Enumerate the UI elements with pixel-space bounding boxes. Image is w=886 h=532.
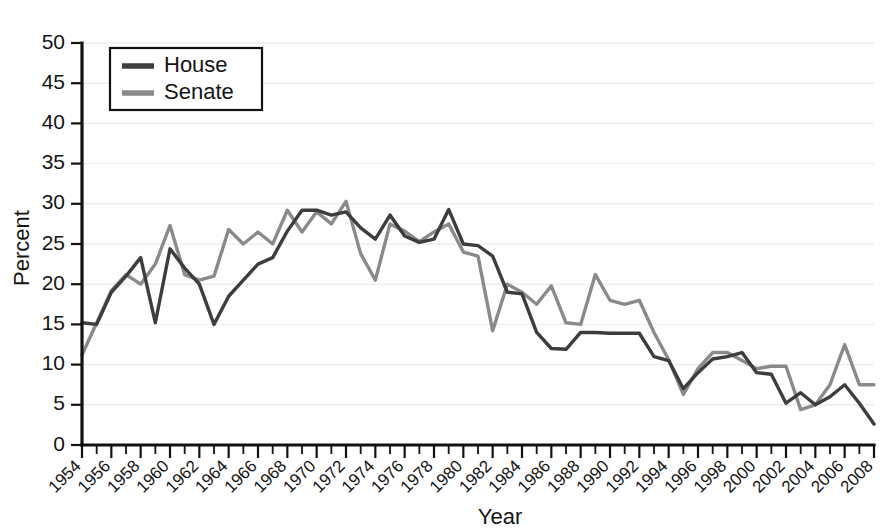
x-tick-label: 1980 (426, 456, 466, 496)
x-tick-label: 1986 (514, 456, 554, 496)
x-tick-label: 1956 (74, 456, 114, 496)
y-tick-label: 50 (42, 30, 65, 53)
series-line-house (82, 209, 874, 424)
y-axis-tick-labels: 05101520253035404550 (42, 30, 65, 455)
x-tick-label: 1972 (309, 456, 349, 496)
y-tick-label: 25 (42, 231, 65, 254)
y-tick-label: 10 (42, 351, 65, 374)
x-tick-label: 2008 (837, 456, 877, 496)
legend-label-senate: Senate (164, 79, 234, 104)
x-tick-label: 1962 (162, 456, 202, 496)
x-tick-label: 1968 (250, 456, 290, 496)
y-tick-label: 30 (42, 190, 65, 213)
y-tick-label: 35 (42, 150, 65, 173)
x-tick-label: 1988 (543, 456, 583, 496)
x-tick-label: 1966 (221, 456, 261, 496)
legend-label-house: House (164, 52, 228, 77)
x-tick-label: 1970 (279, 456, 319, 496)
chart-legend: HouseSenate (110, 48, 262, 110)
x-tick-label: 1964 (191, 456, 231, 496)
chart-figure: 05101520253035404550 1954195619581960196… (0, 0, 886, 532)
series-lines (82, 201, 874, 424)
x-axis-title: Year (478, 504, 522, 529)
y-tick-label: 40 (42, 110, 65, 133)
y-tick-label: 45 (42, 70, 65, 93)
x-tick-label: 1976 (367, 456, 407, 496)
x-tick-label: 2006 (807, 456, 847, 496)
y-tick-label: 20 (42, 271, 65, 294)
series-line-senate (82, 201, 874, 409)
x-tick-label: 1974 (338, 456, 378, 496)
x-tick-label: 1984 (485, 456, 525, 496)
x-tick-label: 1992 (602, 456, 642, 496)
x-tick-label: 1990 (573, 456, 613, 496)
x-tick-label: 1998 (690, 456, 730, 496)
line-chart: 05101520253035404550 1954195619581960196… (0, 0, 886, 532)
y-axis-title: Percent (9, 210, 34, 286)
x-tick-label: 1978 (397, 456, 437, 496)
x-axis-ticks (82, 445, 874, 458)
y-axis-ticks (71, 43, 82, 445)
x-tick-label: 1958 (103, 456, 143, 496)
x-axis-tick-labels: 1954195619581960196219641966196819701972… (45, 456, 877, 496)
x-tick-label: 1954 (45, 456, 85, 496)
x-tick-label: 2000 (719, 456, 759, 496)
x-tick-label: 1982 (455, 456, 495, 496)
y-tick-label: 0 (53, 432, 65, 455)
x-tick-label: 2002 (749, 456, 789, 496)
x-tick-label: 1996 (661, 456, 701, 496)
x-tick-label: 1960 (133, 456, 173, 496)
y-tick-label: 5 (53, 391, 65, 414)
y-tick-label: 15 (42, 311, 65, 334)
x-tick-label: 2004 (778, 456, 818, 496)
x-tick-label: 1994 (631, 456, 671, 496)
